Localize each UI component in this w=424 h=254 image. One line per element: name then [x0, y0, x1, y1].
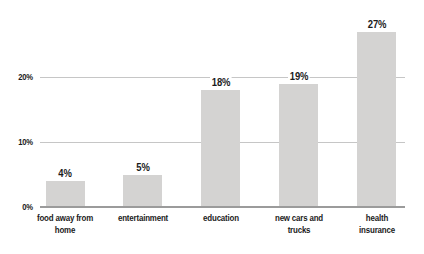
x-category-label: entertainment [118, 212, 168, 224]
bar-chart: 0%10%20%4%food away from home5%entertain… [0, 0, 424, 254]
y-tick-label: 20% [5, 72, 33, 82]
x-category-label: food away from home [37, 212, 93, 236]
bar-value-label: 4% [57, 167, 74, 179]
x-category-label: health insurance [356, 212, 398, 236]
bar-value-label: 27% [366, 18, 388, 30]
bar [357, 32, 396, 208]
bar [201, 90, 240, 207]
x-category-label: new cars and trucks [275, 212, 323, 236]
y-tick-label: 0% [5, 202, 33, 212]
bar-value-label: 5% [134, 161, 151, 173]
x-category-label: education [203, 212, 239, 224]
x-axis-line [40, 206, 405, 208]
bar-value-label: 18% [210, 76, 232, 88]
bar [46, 181, 85, 207]
bar [279, 84, 318, 208]
bar-value-label: 19% [288, 70, 310, 82]
bar [123, 175, 162, 208]
y-tick-label: 10% [5, 137, 33, 147]
